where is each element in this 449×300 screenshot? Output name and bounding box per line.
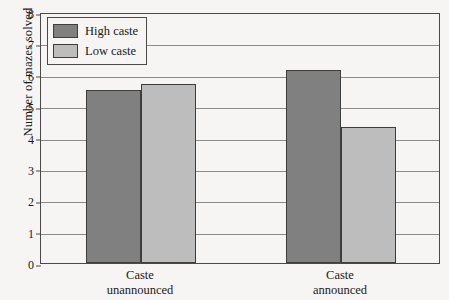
- y-axis-tick-label: 6: [7, 69, 41, 84]
- legend-item-high-caste: High caste: [53, 22, 138, 40]
- bar-low-caste-group-1: [141, 84, 196, 263]
- x-axis-label-line: Caste: [265, 268, 415, 283]
- x-axis-label-group-1: Casteunannounced: [65, 268, 215, 297]
- bar-chart: Number of mazes solved 012345678 Casteun…: [0, 0, 449, 300]
- x-axis-label-line: announced: [265, 283, 415, 298]
- legend-label-low-caste: Low caste: [85, 44, 136, 58]
- y-axis-tick-label: 7: [7, 38, 41, 53]
- x-axis-label-line: unannounced: [65, 283, 215, 298]
- y-axis-tick-label: 1: [7, 226, 41, 241]
- y-axis-tick-label: 8: [7, 7, 41, 22]
- bar-high-caste-group-2: [286, 70, 341, 263]
- y-axis-tick-label: 4: [7, 132, 41, 147]
- bar-high-caste-group-1: [86, 90, 141, 263]
- legend-swatch-low-caste: [53, 44, 78, 58]
- gridline: [41, 77, 439, 78]
- legend-label-high-caste: High caste: [85, 24, 138, 38]
- legend-item-low-caste: Low caste: [53, 42, 138, 60]
- legend: High caste Low caste: [47, 17, 147, 65]
- y-axis-tick-label: 3: [7, 163, 41, 178]
- x-axis-label-line: Caste: [65, 268, 215, 283]
- bar-low-caste-group-2: [341, 127, 396, 263]
- x-axis-label-group-2: Casteannounced: [265, 268, 415, 297]
- y-axis-tick-label: 5: [7, 101, 41, 116]
- y-axis-tick-label: 0: [7, 258, 41, 273]
- y-axis-tick-label: 2: [7, 195, 41, 210]
- y-axis-title: Number of mazes solved: [20, 0, 36, 182]
- legend-swatch-high-caste: [53, 24, 78, 38]
